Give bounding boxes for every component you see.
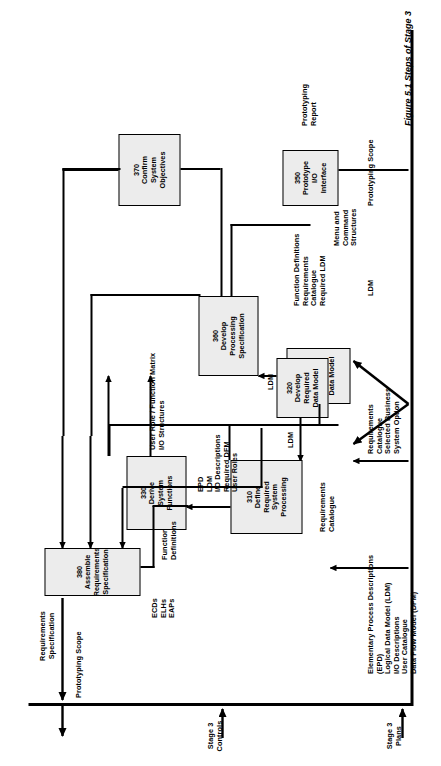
flow-epd-group-label: EPD LDM I/O Descriptions Required DFM Us… [196,362,239,492]
flow-ldm-320-310-label: LDM [286,408,295,448]
conn-360-to-380-horizontal [90,294,92,436]
flow-ldm-340-360-label: LDM [266,350,275,390]
step-box-310[interactable]: 310 Define Required System Processing [230,460,302,534]
flow-user-role-matrix-label: User Role / Function Matrix I/O Structur… [148,270,165,450]
ldm-bottom-label: LDM [366,236,375,296]
flow-function-definitions-group-label: Function Definitions Requirements Catalo… [292,156,326,306]
step-box-370[interactable]: 370 Confirm System Objectives [118,134,180,206]
conn-330-vertical [152,505,188,507]
conn-370-input-horizontal [220,168,222,296]
conn-370-to-380-horizontal [62,168,64,436]
conn-350-to-360-vertical [230,224,310,226]
flow-menu-command-structures-label: Menu and Command Structures [332,136,358,246]
conn-330-out-vertical [108,424,152,426]
conn-310-col-vertical [152,424,338,426]
conn-310-to-340 [318,404,320,426]
conn-350-branch [260,428,262,488]
conn-350-riser [122,486,262,488]
conn-370-riser [62,168,120,170]
prototyping-scope-bottom-label: Prototyping Scope [366,66,375,206]
step-box-380[interactable]: 380 Assemble Requirements Specification [44,548,140,596]
flow-requirements-catalogue-label: Requirements Catalogue [318,422,335,532]
conn-330-out-horizontal [108,424,110,456]
products-list-label: Elementary Process Descriptions (EPD) Lo… [366,444,418,674]
conn-350-to-360-horizontal [230,224,232,296]
prototyping-report-label: Prototyping Report [300,16,317,126]
stage3-diagram: Stage 3 Plans [0,0,441,766]
stage3-controls-label: Stage 3 Controls [206,708,223,764]
requirements-business-option-label: Requirements Catalogue Selected Business… [366,324,400,454]
step-box-320-visible[interactable]: 320 Develop Required Data Model [276,358,328,418]
conn-360-riser [90,294,200,296]
figure-caption: Figure 5.1 Steps of Stage 3 [402,0,412,126]
conn-370-input-vertical [180,168,220,170]
conn-epd-horizontal [228,426,230,460]
conn-330-to-380-horizontal [152,506,154,568]
